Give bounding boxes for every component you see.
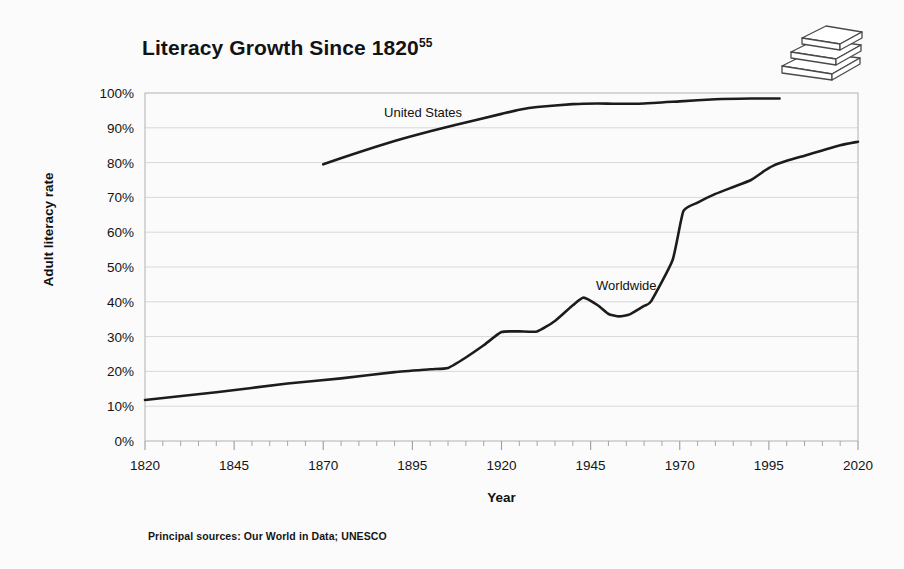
data-series-group <box>145 99 858 400</box>
x-tick-label: 1995 <box>754 458 784 473</box>
plot-area: 0%10%20%30%40%50%60%70%80%90%100% 182018… <box>0 0 904 569</box>
y-tick-label: 90% <box>107 121 134 136</box>
y-tick-label: 30% <box>107 330 134 345</box>
chart-figure: Literacy Growth Since 182055 Adult liter… <box>0 0 904 569</box>
y-tick-label: 50% <box>107 260 134 275</box>
y-tick-label: 0% <box>114 434 134 449</box>
series-label-united-states: United States <box>384 105 463 120</box>
y-tick-label: 20% <box>107 364 134 379</box>
y-tick-label: 40% <box>107 295 134 310</box>
y-tick-label: 100% <box>99 86 134 101</box>
y-tick-label: 70% <box>107 190 134 205</box>
x-tick-label: 1870 <box>308 458 338 473</box>
x-tick-labels: 182018451870189519201945197019952020 <box>130 458 873 473</box>
x-tick-label: 1820 <box>130 458 160 473</box>
y-tick-labels: 0%10%20%30%40%50%60%70%80%90%100% <box>99 86 134 449</box>
y-tick-label: 10% <box>107 399 134 414</box>
x-tick-label: 1845 <box>219 458 249 473</box>
x-tick-label: 1920 <box>486 458 516 473</box>
x-tick-label: 2020 <box>843 458 873 473</box>
series-line-worldwide <box>145 142 858 400</box>
x-tick-label: 1945 <box>576 458 606 473</box>
series-label-worldwide: Worldwide <box>596 278 656 293</box>
y-tick-label: 80% <box>107 156 134 171</box>
x-axis-ticks <box>145 441 858 450</box>
x-tick-label: 1970 <box>665 458 695 473</box>
gridlines-group <box>145 128 858 406</box>
y-tick-label: 60% <box>107 225 134 240</box>
x-tick-label: 1895 <box>397 458 427 473</box>
